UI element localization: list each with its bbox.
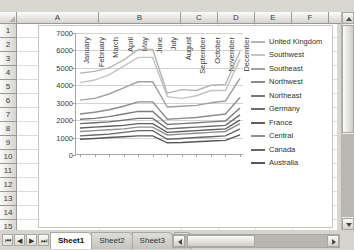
column-header-A[interactable]: A	[17, 12, 99, 24]
column-header-E[interactable]: E	[255, 12, 292, 24]
legend-swatch	[251, 162, 265, 164]
row-header-1[interactable]: 1	[0, 24, 17, 38]
legend-item[interactable]: Northwest	[251, 76, 331, 90]
legend-label: Australia	[269, 159, 298, 167]
y-axis-tick-label: 6000	[56, 47, 73, 54]
row-header-4[interactable]: 4	[0, 66, 17, 80]
sheet-nav-buttons: ⏮ ◀ ▶ ⏭	[2, 234, 49, 246]
excel-window: A B C D E F 12345678910111213141516 0100…	[0, 0, 354, 250]
horizontal-scrollbar[interactable]	[172, 234, 340, 248]
legend-item[interactable]: Southeast	[251, 62, 331, 76]
next-icon: ▶	[29, 237, 34, 244]
legend-swatch	[251, 135, 265, 137]
column-header-row: A B C D E F	[0, 12, 354, 24]
line-chart-object[interactable]: 01000200030004000500060007000 JanuaryFeb…	[38, 25, 333, 228]
sheet-nav-prev-button[interactable]: ◀	[14, 234, 25, 246]
legend-item[interactable]: Canada	[251, 143, 331, 157]
y-axis-tick-label: 3000	[56, 99, 73, 106]
legend-swatch	[251, 41, 265, 43]
column-header-F[interactable]: F	[292, 12, 329, 24]
legend-label: Southwest	[269, 51, 304, 59]
legend-swatch	[251, 108, 265, 110]
series-line	[80, 78, 240, 107]
x-axis-tick-label: December	[243, 37, 250, 72]
row-header-2[interactable]: 2	[0, 38, 17, 52]
series-line	[80, 57, 240, 98]
legend-item[interactable]: Australia	[251, 157, 331, 171]
legend-item[interactable]: France	[251, 116, 331, 130]
horizontal-scroll-thumb[interactable]	[187, 235, 255, 247]
legend-swatch	[251, 54, 265, 56]
legend-label: Canada	[269, 146, 295, 154]
legend-swatch	[251, 149, 265, 151]
row-header-column: 12345678910111213141516	[0, 24, 17, 248]
legend-item[interactable]: Germany	[251, 103, 331, 117]
chart-series-lines	[76, 33, 244, 155]
row-header-13[interactable]: 13	[0, 192, 17, 206]
select-all-corner[interactable]	[0, 12, 17, 24]
vertical-scroll-thumb[interactable]	[342, 25, 354, 133]
chevron-left-icon	[178, 239, 182, 245]
row-header-11[interactable]: 11	[0, 164, 17, 178]
legend-label: United Kingdom	[269, 38, 322, 46]
sheet-tab-sheet1[interactable]: Sheet1	[50, 232, 92, 249]
worksheet-surface[interactable]: 01000200030004000500060007000 JanuaryFeb…	[17, 24, 337, 230]
row-header-7[interactable]: 7	[0, 108, 17, 122]
legend-swatch	[251, 122, 265, 124]
legend-label: Central	[269, 132, 293, 140]
column-header-B[interactable]: B	[99, 12, 181, 24]
scroll-up-button[interactable]	[342, 12, 354, 24]
sheet-nav-first-button[interactable]: ⏮	[2, 234, 13, 246]
y-axis-tick-mark	[73, 155, 76, 156]
first-icon: ⏮	[5, 237, 11, 244]
row-header-3[interactable]: 3	[0, 52, 17, 66]
sheet-nav-next-button[interactable]: ▶	[26, 234, 37, 246]
row-header-10[interactable]: 10	[0, 150, 17, 164]
sheet-nav-last-button[interactable]: ⏭	[38, 234, 49, 246]
chart-plot-area: 01000200030004000500060007000 JanuaryFeb…	[75, 33, 243, 155]
y-axis-tick-label: 4000	[56, 82, 73, 89]
series-line	[80, 50, 240, 94]
sheet-tab-sheet2[interactable]: Sheet2	[91, 232, 132, 249]
legend-label: Northeast	[269, 92, 302, 100]
vertical-scroll-track[interactable]	[342, 134, 354, 217]
legend-item[interactable]: Northeast	[251, 89, 331, 103]
chevron-right-icon	[332, 239, 336, 245]
legend-swatch	[251, 81, 265, 83]
row-header-5[interactable]: 5	[0, 80, 17, 94]
legend-item[interactable]: Central	[251, 130, 331, 144]
legend-swatch	[251, 68, 265, 70]
resize-grip[interactable]	[341, 235, 354, 248]
legend-item[interactable]: United Kingdom	[251, 35, 331, 49]
y-axis-tick-label: 5000	[56, 64, 73, 71]
chart-legend: United KingdomSouthwestSoutheastNorthwes…	[251, 35, 331, 170]
legend-label: Germany	[269, 105, 300, 113]
legend-label: France	[269, 119, 292, 127]
legend-item[interactable]: Southwest	[251, 49, 331, 63]
row-header-8[interactable]: 8	[0, 122, 17, 136]
column-header-D[interactable]: D	[218, 12, 255, 24]
last-icon: ⏭	[41, 237, 47, 244]
scroll-right-button[interactable]	[327, 235, 339, 247]
chevron-up-icon	[346, 17, 352, 21]
row-header-12[interactable]: 12	[0, 178, 17, 192]
series-line	[80, 97, 240, 119]
sheet-tab-sheet3[interactable]: Sheet3	[132, 232, 173, 249]
row-header-9[interactable]: 9	[0, 136, 17, 150]
prev-icon: ◀	[17, 237, 22, 244]
y-axis-tick-label: 7000	[56, 30, 73, 37]
row-header-14[interactable]: 14	[0, 206, 17, 220]
legend-label: Southeast	[269, 65, 303, 73]
row-header-6[interactable]: 6	[0, 94, 17, 108]
legend-swatch	[251, 95, 265, 97]
column-header-C[interactable]: C	[181, 12, 218, 24]
y-axis-tick-label: 2000	[56, 117, 73, 124]
y-axis-tick-label: 1000	[56, 134, 73, 141]
sheet-tabs: Sheet1Sheet2Sheet3❐	[50, 232, 192, 249]
legend-label: Northwest	[269, 78, 303, 86]
sheet-tab-bar: ⏮ ◀ ▶ ⏭ Sheet1Sheet2Sheet3❐	[0, 230, 354, 250]
chevron-down-icon	[346, 223, 352, 227]
scroll-down-button[interactable]	[342, 218, 354, 230]
scroll-left-button[interactable]	[173, 235, 185, 247]
vertical-scrollbar[interactable]	[341, 12, 354, 230]
